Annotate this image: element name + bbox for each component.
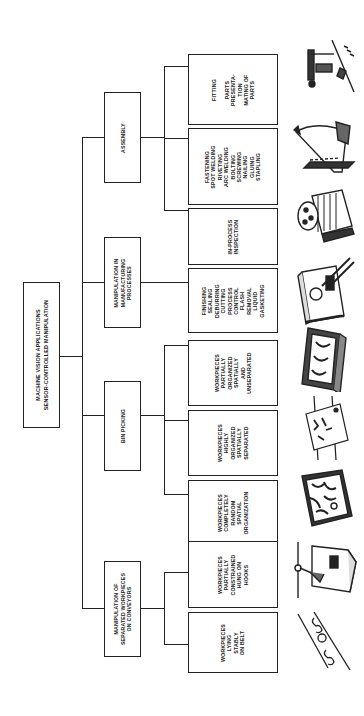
- leaf-label-lying-on-belt: WORKPIECES LYING STABLY ON BELT: [220, 623, 246, 661]
- connector-root-spine: [59, 356, 82, 357]
- category-label-conveyors: MANIPULATION OF SEPARATED WORKPIECES ON …: [113, 573, 133, 645]
- bin-random-icon: [294, 466, 358, 532]
- category-box-manufacturing: MANIPULATION IN MANUFACTURING PROCESSES: [104, 237, 141, 328]
- connector-assembly-out: [141, 137, 164, 138]
- leaf-box-highly-organized: WORKPIECES HIGHLY ORGANIZED SPATIALLY SE…: [188, 410, 278, 476]
- category-label-assembly: ASSEMBLY: [119, 123, 126, 153]
- motor-inspection-icon: [292, 186, 358, 248]
- leaf-label-finishing: FINISHING SEALING DEBURRING CUTTING PROC…: [201, 284, 265, 318]
- leaf-label-inspection: IN-PROCESS INSPECTION: [227, 219, 240, 254]
- category-label-bin-picking: BIN PICKING: [119, 409, 126, 443]
- connector-spine-manufacturing: [82, 282, 104, 283]
- leaf-box-finishing: FINISHING SEALING DEBURRING CUTTING PROC…: [188, 268, 278, 333]
- leaf-box-completely-random: WORKPIECES COMPLETELY RANDOM SPATIAL ORG…: [188, 480, 278, 546]
- connector-to-partially-organized: [164, 345, 188, 346]
- connector-spine-binpicking: [82, 415, 104, 416]
- leaf-box-fitting: FITTING PARTS PRESENTA- TION MATING OF P…: [188, 54, 278, 125]
- leaf-label-partially-organized: WORKPIECES PARTIALLY ORGANIZED SPATIALLY…: [214, 352, 252, 394]
- leaf-box-hung-on-hooks: WORKPIECES PARTIALLY CONSTRAINED HUNG ON…: [188, 541, 278, 608]
- leaf-box-partially-organized: WORKPIECES PARTIALLY ORGANIZED SPATIALLY…: [188, 340, 278, 406]
- leaf-label-highly-organized: WORKPIECES HIGHLY ORGANIZED SPATIALLY SE…: [217, 424, 249, 462]
- connector-main-spine: [82, 137, 83, 609]
- connector-binpicking-out: [141, 415, 164, 416]
- category-box-conveyors: MANIPULATION OF SEPARATED WORKPIECES ON …: [104, 561, 141, 657]
- clamp-fitting-icon: [292, 40, 362, 98]
- leaf-label-hung-on-hooks: WORKPIECES PARTIALLY CONSTRAINED HUNG ON…: [217, 554, 249, 595]
- connector-spine-assembly: [82, 137, 104, 138]
- hook-hung-box-icon: [290, 542, 360, 598]
- leaf-label-fitting: FITTING PARTS PRESENTA- TION MATING OF P…: [211, 73, 256, 105]
- box-finishing-icon: [292, 256, 358, 326]
- connector-conveyors-subspine: [164, 572, 165, 644]
- root-box-machine-vision: MACHINE VISION APPLICATIONS SENSOR-CONTR…: [23, 282, 60, 428]
- connector-to-fastening: [164, 138, 188, 139]
- leaf-label-completely-random: WORKPIECES COMPLETELY RANDOM SPATIAL ORG…: [217, 492, 249, 535]
- category-label-manufacturing: MANIPULATION IN MANUFACTURING PROCESSES: [113, 258, 133, 307]
- conveyor-belt-icon: [292, 612, 358, 670]
- connector-to-highly-organized: [164, 420, 188, 421]
- category-box-bin-picking: BIN PICKING: [104, 381, 141, 471]
- leaf-box-fastening: FASTENING SPOT WELDING RIVETING ARC WELD…: [188, 128, 278, 205]
- tray-partially-organized-icon: [294, 322, 356, 392]
- leaf-box-inspection: IN-PROCESS INSPECTION: [188, 208, 278, 265]
- connector-to-fitting: [164, 66, 188, 67]
- rack-highly-organized-icon: [296, 396, 356, 460]
- leaf-label-fastening: FASTENING SPOT WELDING RIVETING ARC WELD…: [204, 145, 262, 188]
- leaf-box-lying-on-belt: WORKPIECES LYING STABLY ON BELT: [188, 612, 278, 673]
- category-box-assembly: ASSEMBLY: [104, 92, 141, 183]
- stapler-fastening-icon: [290, 112, 362, 176]
- connector-conveyors-out: [141, 608, 164, 609]
- root-label: MACHINE VISION APPLICATIONS SENSOR-CONTR…: [34, 300, 50, 410]
- connector-manufacturing-out: [141, 282, 188, 283]
- connector-to-hung-on-hooks: [164, 572, 188, 573]
- connector-to-lying-on-belt: [164, 644, 188, 645]
- connector-to-inspection: [164, 210, 188, 211]
- connector-spine-conveyors: [82, 608, 104, 609]
- connector-to-completely-random: [164, 494, 188, 495]
